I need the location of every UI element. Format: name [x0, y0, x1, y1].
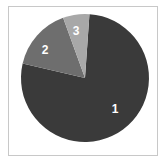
pie-chart-figure: 123 — [0, 0, 166, 163]
pie-slice-label-2: 2 — [42, 43, 49, 57]
pie-slice-label-1: 1 — [112, 102, 119, 116]
pie-chart-canvas: 123 — [0, 0, 166, 163]
pie-slices-group — [21, 14, 149, 142]
pie-slice-label-3: 3 — [73, 24, 80, 38]
